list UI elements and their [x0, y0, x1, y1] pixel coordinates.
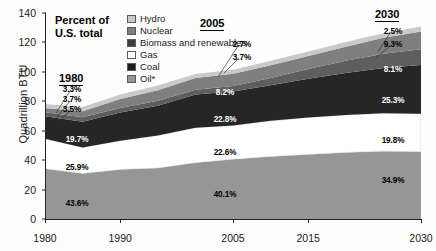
value-2005-oil: 40.1% [214, 190, 237, 199]
year-header-1980: 1980 [59, 72, 83, 86]
value-2030-biomass: 8.1% [384, 65, 402, 74]
x-tick-label: 2015 [297, 232, 320, 244]
y-tick-label: 80 [2, 95, 36, 107]
headline-line-2: U.S. total [55, 27, 109, 40]
legend-swatch-icon [127, 75, 136, 83]
value-1980-nuclear: 3.7% [63, 95, 81, 104]
legend-item-biomass-and-renewables: Biomass and renewables [127, 37, 246, 48]
legend-item-hydro: Hydro [127, 13, 246, 24]
x-tick-mark [308, 219, 309, 223]
y-tick-label: 100 [2, 66, 36, 78]
legend-item-oil: Oil* [127, 73, 246, 84]
x-tick-label: 1990 [109, 232, 132, 244]
value-2005-hydro: 3.7% [233, 53, 251, 62]
y-tick-label: 40 [2, 154, 36, 166]
x-tick-mark [421, 219, 422, 223]
y-tick-label: 20 [2, 184, 36, 196]
x-tick-label: 2005 [221, 232, 244, 244]
value-2030-gas: 19.8% [382, 136, 405, 145]
legend-item-coal: Coal [127, 61, 246, 72]
y-tick-label: 120 [2, 36, 36, 48]
legend-swatch-icon [127, 51, 136, 59]
x-tick-mark [45, 219, 46, 223]
x-tick-label: 2030 [409, 232, 432, 244]
legend-item-label: Oil* [140, 73, 155, 84]
value-1980-oil: 43.6% [66, 199, 89, 208]
value-2005-biomass: 2.7% [233, 40, 251, 49]
value-1980-gas: 25.9% [66, 163, 89, 172]
headline-line-1: Percent of [55, 14, 109, 27]
y-tick-label: 0 [2, 213, 36, 225]
year-header-2005: 2005 [200, 17, 224, 31]
value-1980-coal: 19.7% [66, 135, 89, 144]
value-1980-hydro: 3.3% [63, 85, 81, 94]
energy-stacked-area-chart: Quadrillion BTU 140120100806040200 19801… [0, 0, 436, 251]
value-2005-gas: 22.6% [214, 148, 237, 157]
legend-item-nuclear: Nuclear [127, 25, 246, 36]
year-header-2030: 2030 [375, 8, 399, 22]
legend-swatch-icon [127, 39, 136, 47]
value-2030-oil: 34.9% [382, 176, 405, 185]
y-tick-label: 60 [2, 125, 36, 137]
value-2030-coal: 25.3% [382, 96, 405, 105]
legend-swatch-icon [127, 27, 136, 35]
legend-swatch-icon [127, 63, 136, 71]
x-tick-label: 1980 [33, 232, 56, 244]
value-2005-coal: 22.8% [214, 115, 237, 124]
legend-item-label: Biomass and renewables [140, 37, 246, 48]
chart-headline: Percent of U.S. total [55, 14, 109, 39]
legend-swatch-icon [127, 15, 136, 23]
legend-item-label: Coal [140, 61, 160, 72]
x-tick-mark [120, 219, 121, 223]
legend-item-label: Hydro [140, 13, 165, 24]
value-2005-nuclear: 8.2% [216, 88, 234, 97]
legend-item-gas: Gas [127, 49, 246, 60]
y-axis-line [45, 13, 46, 220]
y-tick-label: 140 [2, 7, 36, 19]
x-tick-mark [233, 219, 234, 223]
chart-legend: HydroNuclearBiomass and renewablesGasCoa… [127, 13, 246, 85]
value-2030-nuclear: 9.3% [384, 40, 402, 49]
legend-item-label: Gas [140, 49, 157, 60]
value-2030-hydro: 2.5% [384, 27, 402, 36]
value-1980-biomass: 3.5% [63, 105, 81, 114]
legend-item-label: Nuclear [140, 25, 173, 36]
